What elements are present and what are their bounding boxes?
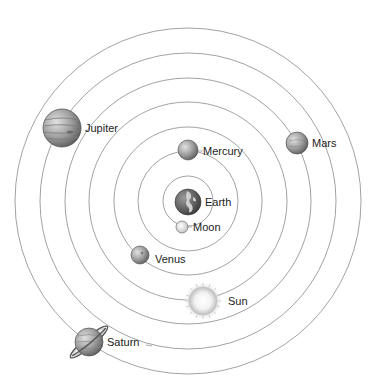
moon: Moon [176, 221, 221, 233]
venus-icon [131, 246, 149, 264]
moon-icon [176, 221, 188, 233]
jupiter-label: Jupiter [85, 122, 118, 134]
mars-label: Mars [312, 137, 337, 149]
saturn-label: Saturn [107, 336, 139, 348]
sun: Sun [184, 282, 248, 320]
earth: Earth [175, 189, 231, 215]
moon-label: Moon [193, 221, 221, 233]
mars: Mars [286, 132, 337, 154]
mercury-icon [178, 140, 198, 160]
jupiter-icon [43, 109, 81, 147]
mercury-label: Mercury [203, 145, 243, 157]
venus: Venus [131, 246, 186, 265]
mars-icon [286, 132, 308, 154]
venus-label: Venus [155, 253, 186, 265]
geocentric-diagram: Earth Moon Mercury Venus [0, 0, 372, 392]
earth-label: Earth [205, 196, 231, 208]
sun-icon [189, 287, 217, 315]
sun-label: Sun [228, 295, 248, 307]
